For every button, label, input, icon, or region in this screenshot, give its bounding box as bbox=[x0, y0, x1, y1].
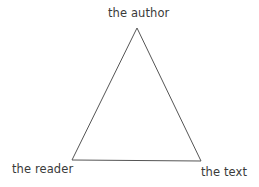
triangle-diagram bbox=[0, 0, 259, 187]
reader-label: the reader bbox=[12, 164, 73, 176]
text-label: the text bbox=[201, 167, 247, 179]
triangle-shape bbox=[72, 28, 201, 161]
author-label: the author bbox=[108, 8, 169, 20]
